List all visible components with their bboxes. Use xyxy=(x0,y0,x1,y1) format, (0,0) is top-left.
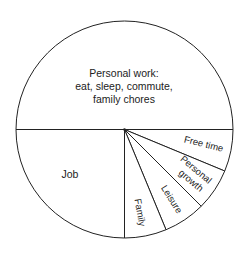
label-personal-work-line2: eat, sleep, commute, xyxy=(75,80,172,92)
label-job: Job xyxy=(62,168,79,180)
pie-slice-job xyxy=(16,130,125,239)
label-personal-work-line1: Personal work: xyxy=(89,67,158,79)
label-personal-work-line3: family chores xyxy=(93,93,155,105)
pie-chart: Personal work: eat, sleep, commute, fami… xyxy=(0,0,243,256)
center-point xyxy=(123,128,126,131)
